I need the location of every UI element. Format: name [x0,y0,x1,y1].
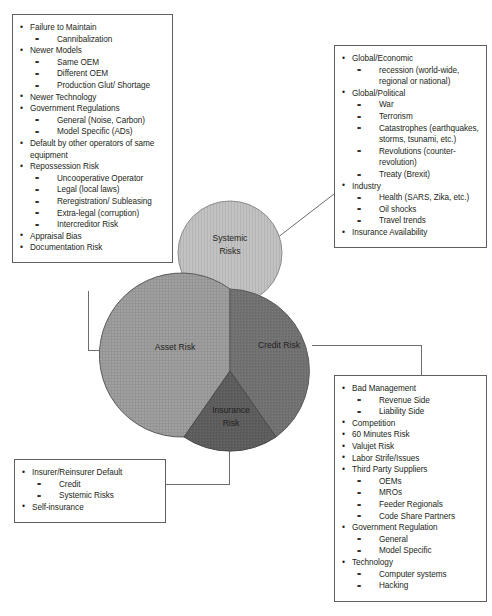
list-item: Government Regulations [13,103,169,115]
list-item: Terrorism [335,111,482,123]
list-item: War [335,99,482,111]
list-item: Treaty (Brexit) [335,169,482,181]
list-item: Production Glut/ Shortage [13,80,169,92]
risk-taxonomy-diagram: Systemic Risks Asset Risk Credit Risk In… [0,0,492,616]
list-item: Extra-legal (corruption) [13,208,169,220]
list-item: Systemic Risks [15,490,162,502]
list-item: Repossession Risk [13,161,169,173]
list-item: Travel trends [335,215,482,227]
list-item: General [335,534,482,546]
list-item: Labor Strife/Issues [335,453,482,465]
insurance-risk-detail-box: Insurer/Reinsurer DefaultCreditSystemic … [14,459,166,523]
systemic-risks-list: Global/Economicrecession (world-wide, re… [335,53,482,239]
list-item: Cannibalization [13,34,169,46]
list-item: Competition [335,418,482,430]
list-item: Failure to Maintain [13,22,169,34]
asset-risk-list: Failure to MaintainCannibalizationNewer … [13,22,169,254]
list-item: Hacking [335,580,482,592]
list-item: Code Share Partners [335,511,482,523]
list-item: Industry [335,181,482,193]
list-item: Self-insurance [15,502,162,514]
list-item: Credit [15,479,162,491]
list-item: Technology [335,557,482,569]
list-item: Feeder Regionals [335,499,482,511]
list-item: Insurer/Reinsurer Default [15,467,162,479]
list-item: Revenue Side [335,395,482,407]
list-item: Model Specific (ADs) [13,126,169,138]
list-item: Newer Models [13,45,169,57]
list-item: General (Noise, Carbon) [13,115,169,127]
list-item: Third Party Suppliers [335,464,482,476]
list-item: Health (SARS, Zika, etc.) [335,192,482,204]
list-item: Model Specific [335,545,482,557]
list-item: Insurance Availability [335,227,482,239]
list-item: Valujet Risk [335,441,482,453]
list-item: Global/Political [335,88,482,100]
list-item: Uncooperative Operator [13,173,169,185]
list-item: MROs [335,487,482,499]
list-item: Legal (local laws) [13,184,169,196]
list-item: Default by other operators of same equip… [13,138,169,161]
list-item: Global/Economic [335,53,482,65]
list-item: Reregistration/ Subleasing [13,196,169,208]
list-item: Liability Side [335,406,482,418]
list-item: Intercreditor Risk [13,219,169,231]
list-item: Revolutions (counter-revolution) [335,146,482,169]
list-item: 60 Minutes Risk [335,429,482,441]
list-item: Oil shocks [335,204,482,216]
list-item: Catastrophes (earthquakes, storms, tsuna… [335,123,482,146]
list-item: Different OEM [13,68,169,80]
insurance-risk-list: Insurer/Reinsurer DefaultCreditSystemic … [15,467,162,513]
list-item: Newer Technology [13,92,169,104]
asset-risk-detail-box: Failure to MaintainCannibalizationNewer … [12,14,173,263]
list-item: OEMs [335,476,482,488]
list-item: Bad Management [335,383,482,395]
credit-risk-list: Bad ManagementRevenue SideLiability Side… [335,383,482,592]
systemic-risks-detail-box: Global/Economicrecession (world-wide, re… [334,45,487,248]
list-item: Documentation Risk [13,242,169,254]
list-item: recession (world-wide, regional or natio… [335,65,482,88]
credit-risk-detail-box: Bad ManagementRevenue SideLiability Side… [334,375,487,602]
list-item: Same OEM [13,57,169,69]
list-item: Government Regulation [335,522,482,534]
list-item: Computer systems [335,569,482,581]
list-item: Appraisal Bias [13,231,169,243]
